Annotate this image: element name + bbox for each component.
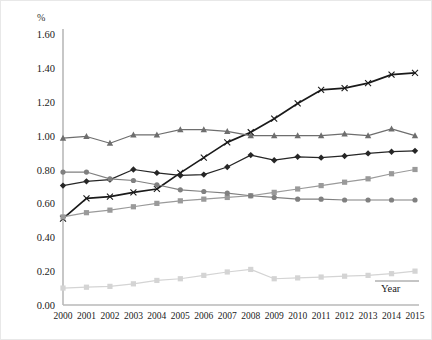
data-point-marker [319,197,324,202]
data-point-marker [389,197,394,202]
data-point-marker [154,170,160,176]
data-point-marker [84,169,89,174]
data-point-marker [295,100,301,106]
data-point-marker [342,197,347,202]
data-point-marker [60,285,65,290]
data-point-marker [177,172,183,178]
data-point-marker [154,201,159,206]
data-point-marker [412,197,417,202]
data-point-marker [130,166,136,172]
data-point-marker [341,153,347,159]
data-point-marker [107,176,112,181]
data-point-marker [131,281,136,286]
data-point-marker [60,214,65,219]
data-point-marker [154,182,159,187]
series-series-x-black [60,70,418,222]
data-point-marker [201,171,207,177]
data-point-marker [319,183,324,188]
data-point-marker [201,197,206,202]
data-point-marker [365,197,370,202]
data-point-marker [248,152,254,158]
data-point-marker [295,197,300,202]
data-point-marker [201,155,207,161]
data-point-marker [412,269,417,274]
data-point-marker [412,148,418,154]
data-point-marker [388,125,394,131]
data-point-marker [389,171,394,176]
data-point-marker [295,275,300,280]
data-point-marker [271,157,277,163]
series-series-triangle-gray [60,125,418,145]
data-point-marker [201,273,206,278]
chart-root: % Year 0.000.200.400.600.801.001.201.401… [0,0,432,340]
data-point-marker [389,271,394,276]
data-point-marker [131,178,136,183]
data-point-marker [272,195,277,200]
data-point-marker [272,190,277,195]
data-point-marker [342,180,347,185]
data-point-marker [319,274,324,279]
plot-canvas [1,1,432,340]
data-point-marker [294,154,300,160]
data-point-marker [295,186,300,191]
series-series-square-lightgray [60,267,417,291]
data-point-marker [178,276,183,281]
data-point-marker [131,204,136,209]
line-chart: % Year 0.000.200.400.600.801.001.201.401… [1,1,432,340]
data-point-marker [178,187,183,192]
data-point-marker [60,182,66,188]
series-line [63,151,415,186]
data-point-marker [318,154,324,160]
data-point-marker [84,210,89,215]
data-point-marker [412,167,417,172]
data-point-marker [365,176,370,181]
data-point-marker [178,198,183,203]
data-point-marker [388,149,394,155]
data-point-marker [84,285,89,290]
data-point-marker [201,189,206,194]
series-series-circle-gray [60,169,417,202]
data-point-marker [225,191,230,196]
data-point-marker [107,284,112,289]
series-series-square-midgray [60,167,417,220]
data-point-marker [248,267,253,272]
data-point-marker [225,269,230,274]
data-point-marker [272,276,277,281]
data-point-marker [271,116,277,122]
data-point-marker [107,208,112,213]
data-point-marker [60,169,65,174]
series-line [63,129,415,143]
data-point-marker [83,178,89,184]
data-point-marker [342,274,347,279]
data-point-marker [248,193,253,198]
data-point-marker [224,164,230,170]
data-point-marker [154,278,159,283]
series-line [63,269,415,288]
data-point-marker [365,273,370,278]
data-point-marker [365,150,371,156]
series-series-diamond-dark [60,148,418,189]
